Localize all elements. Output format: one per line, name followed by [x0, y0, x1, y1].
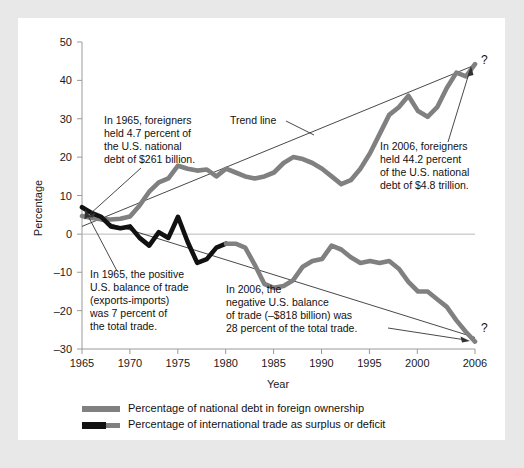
y-tick-label-20: 20: [60, 151, 72, 163]
legend-label-debt: Percentage of national debt in foreign o…: [128, 402, 364, 414]
chart-canvas: 50 40 30 20 10 0 –10 –20 –30 1965 1970: [18, 18, 505, 440]
annotation-line: In 1965, the positive: [90, 268, 184, 280]
annotation-line: (exports-imports): [90, 294, 169, 306]
annotation-line: negative U.S. balance: [226, 296, 329, 308]
annotation-line: of trade (–$818 billion) was: [226, 309, 352, 321]
annotation-line: the total trade.: [90, 320, 157, 332]
y-tick-label-neg20: –20: [54, 305, 72, 317]
legend: Percentage of national debt in foreign o…: [82, 402, 385, 430]
figure-card: 50 40 30 20 10 0 –10 –20 –30 1965 1970: [18, 18, 505, 440]
y-axis-title: Percentage: [32, 180, 44, 236]
annotation-line: was 7 percent of: [89, 307, 167, 319]
annotation-line: In 1965, foreigners: [104, 114, 192, 126]
x-tick-label-1975: 1975: [166, 357, 190, 369]
legend-swatch-debt: [82, 406, 120, 412]
annotation-leader-line: [388, 328, 466, 340]
trend-line-leader: [286, 121, 314, 135]
question-mark-trade: ?: [481, 321, 488, 335]
annotation-leader-line: [90, 168, 141, 214]
x-ticks-group: 1965 1970 1975 1980 1985 1990 1995 2000 …: [70, 349, 487, 369]
x-tick-label-2000: 2000: [405, 357, 429, 369]
annotation-line: the U.S. national: [104, 140, 182, 152]
annotation-line: 28 percent of the total trade.: [226, 322, 357, 334]
annotation-line: U.S. balance of trade: [90, 281, 189, 293]
x-axis-title: Year: [267, 378, 290, 390]
trend-line-label: Trend line: [230, 114, 276, 126]
x-tick-label-1965: 1965: [70, 357, 94, 369]
annotation-line: In 2006, the: [226, 283, 282, 295]
x-tick-label-1980: 1980: [213, 357, 237, 369]
trend-line-callout: Trend line: [230, 114, 314, 135]
x-tick-label-2006: 2006: [463, 357, 487, 369]
x-tick-label-1990: 1990: [309, 357, 333, 369]
y-tick-label-0: 0: [66, 228, 72, 240]
y-tick-label-50: 50: [60, 36, 72, 48]
question-mark-debt: ?: [481, 53, 488, 67]
legend-swatch-trade: [82, 422, 106, 429]
annotation-line: held 44.2 percent: [380, 153, 461, 165]
legend-swatch-trade-tail: [106, 423, 120, 428]
x-tick-label-1985: 1985: [261, 357, 285, 369]
annotation-line: of the U.S. national: [380, 166, 469, 178]
y-tick-label-neg30: –30: [54, 343, 72, 355]
series-trade-line-early: [82, 207, 226, 263]
y-ticks-group: 50 40 30 20 10 0 –10 –20 –30: [54, 36, 82, 355]
x-tick-label-1970: 1970: [118, 357, 142, 369]
y-tick-label-40: 40: [60, 74, 72, 86]
annotation-line: held 4.7 percent of: [104, 127, 191, 139]
annotation-line: debt of $4.8 trillion.: [380, 179, 469, 191]
annotation-line: debt of $261 billion.: [104, 153, 195, 165]
y-tick-label-10: 10: [60, 190, 72, 202]
legend-label-trade: Percentage of international trade as sur…: [128, 418, 385, 430]
annotation-line: In 2006, foreigners: [380, 140, 468, 152]
annotation-leader-line: [87, 214, 117, 271]
x-tick-label-1995: 1995: [357, 357, 381, 369]
y-tick-label-neg10: –10: [54, 266, 72, 278]
y-tick-label-30: 30: [60, 113, 72, 125]
annotation-2006-trade: In 2006, the negative U.S. balance of tr…: [226, 283, 470, 343]
